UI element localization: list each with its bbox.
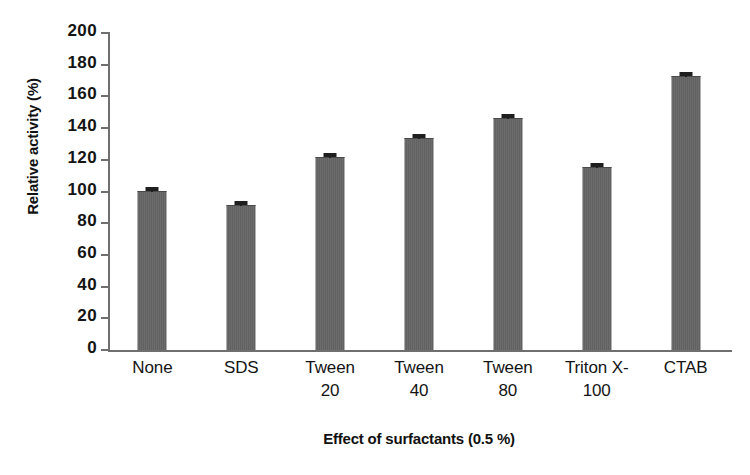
bar-group (286, 33, 375, 350)
y-axis-tick-label: 160 (67, 84, 97, 104)
error-bar-cap (412, 134, 425, 138)
error-bar-cap (146, 187, 159, 191)
y-axis-tick-label: 80 (77, 211, 97, 231)
x-axis-title: Effect of surfactants (0.5 %) (108, 430, 730, 447)
y-axis-tick-label: 0 (87, 338, 97, 358)
bar (493, 118, 522, 350)
y-axis-tick-mark (101, 286, 108, 288)
error-bar-cap (501, 114, 514, 118)
error-bar-cap (235, 201, 248, 205)
y-axis-tick-mark (101, 191, 108, 193)
bar-group (108, 33, 197, 350)
x-axis-tick-labels: NoneSDSTween20Tween40Tween80Triton X-100… (108, 356, 730, 416)
y-axis-tick-mark (101, 95, 108, 97)
y-axis-tick-mark (101, 159, 108, 161)
x-axis-tick-label: Tween20 (286, 356, 375, 402)
y-axis-tick-label: 200 (67, 21, 97, 41)
y-axis-tick-mark (101, 254, 108, 256)
y-axis-tick-mark (101, 349, 108, 351)
bar-group (197, 33, 286, 350)
y-axis-tick-mark (101, 32, 108, 34)
y-axis-tick-mark (101, 317, 108, 319)
error-bar-cap (679, 72, 692, 76)
x-axis-tick-label: None (108, 356, 197, 379)
error-bar-cap (590, 163, 603, 167)
bar-group (375, 33, 464, 350)
y-axis-tick-mark (101, 222, 108, 224)
y-axis-tick-label: 140 (67, 116, 97, 136)
y-axis-tick-mark (101, 64, 108, 66)
x-axis-tick-label: Tween40 (375, 356, 464, 402)
error-bar-cap (324, 153, 337, 157)
x-axis-tick-label: Triton X-100 (552, 356, 641, 402)
x-axis-tick-label: CTAB (641, 356, 730, 379)
bar (138, 191, 167, 351)
bar (671, 76, 700, 350)
bar (582, 167, 611, 350)
bar (404, 138, 433, 350)
y-axis-tick-label: 120 (67, 148, 97, 168)
y-axis-title: Relative activity (%) (24, 27, 41, 267)
y-axis-tick-label: 60 (77, 243, 97, 263)
bar (227, 205, 256, 350)
x-axis-line (108, 350, 732, 352)
y-axis-tick-mark (101, 127, 108, 129)
y-axis-tick-label: 20 (77, 306, 97, 326)
y-axis-tick-label: 180 (67, 53, 97, 73)
bar-group (552, 33, 641, 350)
x-axis-tick-label: Tween80 (463, 356, 552, 402)
bars-layer (108, 33, 730, 350)
y-axis-tick-label: 100 (67, 180, 97, 200)
bar-group (641, 33, 730, 350)
bar-chart-figure: Relative activity (%) 020406080100120140… (0, 0, 750, 475)
bar (316, 157, 345, 350)
bar-group (463, 33, 552, 350)
y-axis-tick-label: 40 (77, 275, 97, 295)
x-axis-tick-label: SDS (197, 356, 286, 379)
